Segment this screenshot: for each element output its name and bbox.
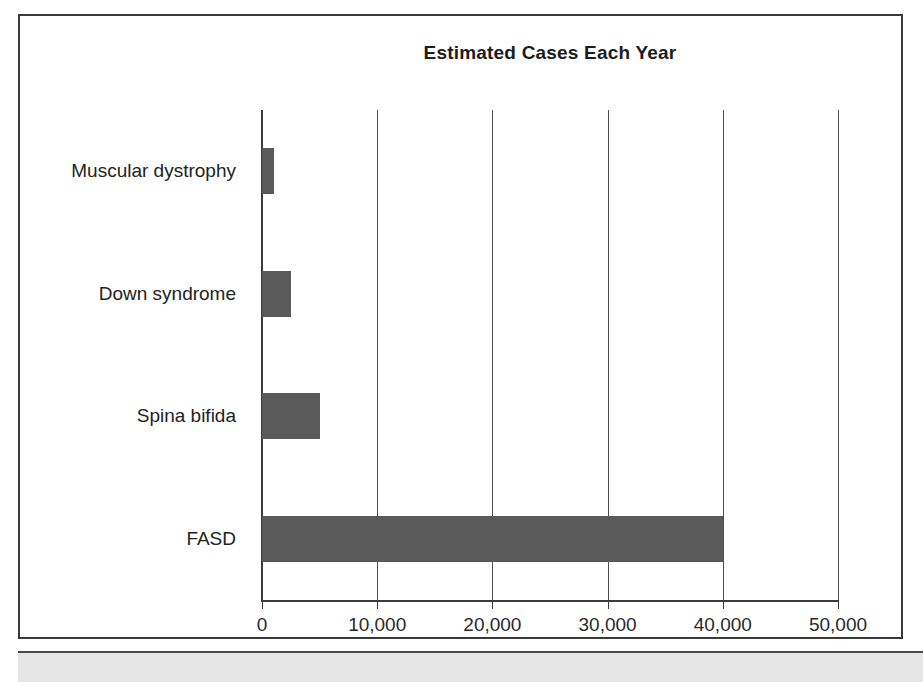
chart-title: Estimated Cases Each Year — [262, 42, 838, 64]
x-tick-0 — [262, 600, 263, 609]
x-tick-label-20000: 20,000 — [463, 614, 521, 636]
y-axis-label-spina-bifida: Spina bifida — [137, 405, 236, 427]
plot-area: 010,00020,00030,00040,00050,000 — [262, 110, 838, 600]
gridline-50000 — [838, 110, 839, 600]
y-axis-label-down-syndrome: Down syndrome — [99, 283, 236, 305]
y-axis-label-muscular-dystrophy: Muscular dystrophy — [71, 160, 236, 182]
y-axis-label-fasd: FASD — [186, 528, 236, 550]
bar-muscular-dystrophy — [262, 148, 274, 194]
x-tick-label-0: 0 — [257, 614, 268, 636]
x-tick-40000 — [723, 600, 724, 609]
x-tick-label-50000: 50,000 — [809, 614, 867, 636]
x-tick-50000 — [838, 600, 839, 609]
x-tick-30000 — [608, 600, 609, 609]
bar-fasd — [262, 516, 723, 562]
x-axis-line — [261, 600, 839, 602]
bar-spina-bifida — [262, 393, 320, 439]
x-tick-10000 — [377, 600, 378, 609]
gridline-40000 — [723, 110, 724, 600]
x-tick-label-30000: 30,000 — [579, 614, 637, 636]
page-right-margin — [903, 14, 923, 651]
y-axis-category-labels: Muscular dystrophyDown syndromeSpina bif… — [0, 110, 250, 600]
x-tick-label-10000: 10,000 — [348, 614, 406, 636]
page-bottom-strip — [18, 651, 923, 682]
x-tick-label-40000: 40,000 — [694, 614, 752, 636]
chart-figure: Estimated Cases Each Year Muscular dystr… — [0, 0, 923, 682]
x-tick-20000 — [492, 600, 493, 609]
bar-down-syndrome — [262, 271, 291, 317]
